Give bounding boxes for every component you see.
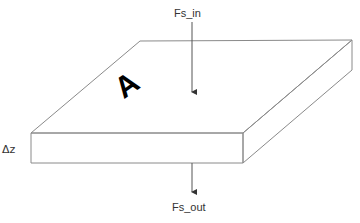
slab-side-face [243, 40, 352, 163]
slab-front-face [31, 133, 243, 163]
slab-diagram [0, 0, 360, 223]
thickness-label: Δz [2, 144, 15, 155]
flux-in-label: Fs_in [174, 8, 201, 19]
flux-out-label: Fs_out [172, 202, 206, 213]
